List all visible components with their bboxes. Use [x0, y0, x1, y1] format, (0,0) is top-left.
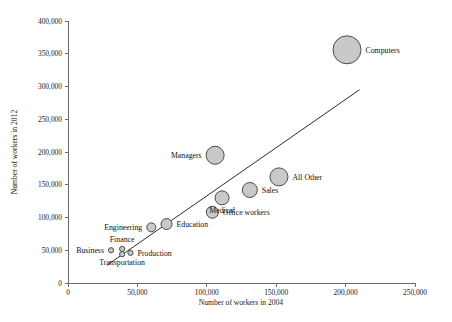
- label-office-workers: Office workers: [223, 208, 270, 217]
- y-tick-label: 50,000: [42, 246, 63, 255]
- bubble-education[interactable]: [161, 219, 172, 230]
- bubble-medical[interactable]: [215, 191, 229, 205]
- bubble-sales[interactable]: [242, 182, 257, 197]
- x-tick-label: 50,000: [127, 288, 148, 297]
- y-tick-label: 0: [58, 279, 62, 288]
- bubble-engineering[interactable]: [147, 223, 156, 232]
- bubble-computers[interactable]: [333, 36, 361, 64]
- y-tick-label: 100,000: [38, 213, 62, 222]
- x-tick-label: 150,000: [264, 288, 288, 297]
- label-all-other: All Other: [292, 173, 322, 182]
- data-points: [108, 36, 361, 257]
- x-tick-label: 0: [66, 288, 70, 297]
- bubble-all-other[interactable]: [270, 168, 288, 186]
- y-tick-label: 400,000: [38, 17, 62, 26]
- y-tick-label: 150,000: [38, 180, 62, 189]
- bubble-business[interactable]: [108, 248, 113, 253]
- label-production: Production: [138, 249, 172, 258]
- bubble-chart: 050,000100,000150,000200,000250,000300,0…: [0, 0, 452, 322]
- data-point-labels: ComputersManagersAll OtherSalesMedicalOf…: [76, 46, 400, 268]
- axis-ticks: [65, 21, 416, 287]
- y-tick-label: 350,000: [38, 49, 62, 58]
- bubble-managers[interactable]: [206, 146, 224, 164]
- bubble-finance[interactable]: [120, 246, 125, 251]
- label-sales: Sales: [262, 186, 278, 195]
- label-education: Education: [177, 220, 209, 229]
- label-engineering: Engineering: [104, 223, 142, 232]
- label-business: Business: [76, 246, 104, 255]
- y-tick-label: 250,000: [38, 115, 62, 124]
- chart-canvas: 050,000100,000150,000200,000250,000300,0…: [0, 0, 452, 322]
- label-finance: Finance: [110, 235, 135, 244]
- bubble-transportation[interactable]: [120, 252, 125, 257]
- label-computers: Computers: [365, 46, 399, 55]
- label-transportation: Transportation: [99, 258, 145, 267]
- bubble-production[interactable]: [128, 250, 133, 255]
- y-tick-label: 200,000: [38, 148, 62, 157]
- x-tick-label: 200,000: [334, 288, 358, 297]
- label-managers: Managers: [171, 151, 202, 160]
- y-tick-label: 300,000: [38, 82, 62, 91]
- x-tick-label: 250,000: [403, 288, 427, 297]
- x-axis-title: Number of workers in 2004: [199, 298, 284, 307]
- y-axis-title: Number of workers in 2012: [10, 110, 19, 195]
- x-tick-label: 100,000: [195, 288, 219, 297]
